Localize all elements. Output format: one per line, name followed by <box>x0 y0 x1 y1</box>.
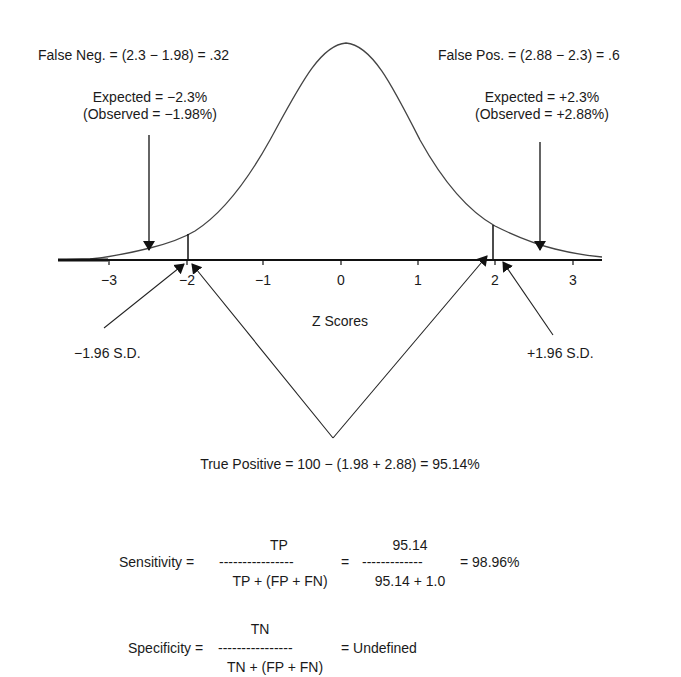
sensitivity-denominator: TP + (FP + FN) <box>210 573 350 590</box>
sensitivity-value-fraction-bar: ------------- <box>362 554 423 571</box>
right-observed-label: (Observed = +2.88%) <box>462 106 622 123</box>
sensitivity-denominator-value: 95.14 + 1.0 <box>355 573 465 590</box>
left-expected-label: Expected = −2.3% <box>70 89 230 106</box>
tp-left-arrow <box>192 264 333 438</box>
bell-curve <box>58 43 602 260</box>
sensitivity-numerator: TP <box>219 537 339 554</box>
specificity-result: = Undefined <box>341 640 417 657</box>
sensitivity-equals: = <box>341 554 349 571</box>
axis-title: Z Scores <box>280 313 400 330</box>
specificity-label: Specificity = <box>128 640 203 657</box>
left-sd-label: −1.96 S.D. <box>74 345 141 362</box>
true-positive-label: True Positive = 100 − (1.98 + 2.88) = 95… <box>140 456 540 473</box>
false-negative-label: False Neg. = (2.3 − 1.98) = .32 <box>38 47 229 64</box>
right-expected-label: Expected = +2.3% <box>462 89 622 106</box>
tick-label: 0 <box>326 272 356 289</box>
specificity-fraction-bar: ---------------- <box>218 640 293 657</box>
sensitivity-fraction-bar: ---------------- <box>219 554 294 571</box>
left-observed-label: (Observed = −1.98%) <box>70 106 230 123</box>
tick-label: −3 <box>94 272 124 289</box>
sensitivity-label: Sensitivity = <box>119 554 194 571</box>
tick-label: 3 <box>558 272 588 289</box>
right-sd-label: +1.96 S.D. <box>527 345 594 362</box>
tick-label: −1 <box>248 272 278 289</box>
sensitivity-numerator-value: 95.14 <box>360 537 460 554</box>
right-sd-arrow <box>503 262 553 335</box>
false-positive-label: False Pos. = (2.88 − 2.3) = .6 <box>438 47 620 64</box>
specificity-denominator: TN + (FP + FN) <box>205 659 345 676</box>
specificity-numerator: TN <box>220 621 300 638</box>
tick-label: 2 <box>480 272 510 289</box>
tick-label: −2 <box>172 272 202 289</box>
sensitivity-result: = 98.96% <box>460 554 520 571</box>
tick-label: 1 <box>403 272 433 289</box>
